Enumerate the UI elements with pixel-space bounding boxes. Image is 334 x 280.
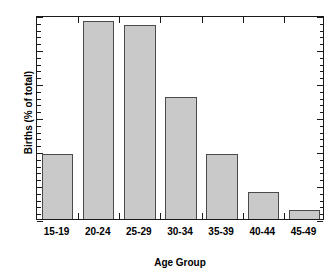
bar[interactable] [289, 210, 320, 219]
bar[interactable] [42, 154, 73, 219]
bar-slot [78, 17, 119, 219]
bar-slot [243, 17, 284, 219]
bar-slot [160, 17, 201, 219]
bar[interactable] [206, 154, 237, 219]
y-axis-major-tick [37, 221, 43, 222]
bar[interactable] [248, 192, 279, 219]
bar-slot [119, 17, 160, 219]
plot-area [36, 16, 324, 220]
bar-slot [284, 17, 325, 219]
bar-slot [202, 17, 243, 219]
bar-chart-figure: Births (% of total) 051015202530 15-1920… [0, 0, 334, 280]
bar[interactable] [83, 21, 114, 219]
y-axis-major-tick [317, 221, 323, 222]
bars-layer [37, 17, 323, 219]
bar[interactable] [124, 25, 155, 219]
x-axis-title: Age Group [36, 257, 324, 268]
bar-slot [37, 17, 78, 219]
y-axis-title: Births (% of total) [23, 28, 34, 198]
x-axis-tick-label: 45-49 [275, 226, 331, 237]
bar[interactable] [165, 97, 196, 219]
